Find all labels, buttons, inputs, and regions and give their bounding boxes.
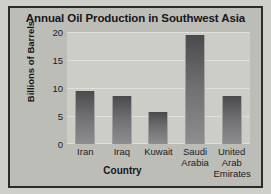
- bars-layer: [67, 32, 250, 144]
- bar-slot: [213, 32, 250, 144]
- y-tick-label: 5: [41, 111, 63, 122]
- bar-saudi-arabia: [185, 35, 205, 144]
- chart-title: Annual Oil Production in Southwest Asia: [10, 12, 261, 24]
- bar-iraq: [112, 96, 132, 144]
- y-tick-label: 10: [41, 83, 63, 94]
- plot-area: [67, 32, 250, 144]
- x-tick-label-line: Iran: [67, 146, 104, 157]
- x-tick-label-line: United: [213, 146, 250, 157]
- bar-kuwait: [148, 112, 168, 144]
- x-tick-label-line: Iraq: [104, 146, 141, 157]
- bar-slot: [67, 32, 104, 144]
- bar-slot: [104, 32, 141, 144]
- bar-united-arab-emirates: [222, 96, 242, 144]
- x-tick-label-line: Kuwait: [140, 146, 177, 157]
- y-tick-label: 15: [41, 55, 63, 66]
- y-tick-label: 0: [41, 139, 63, 150]
- y-axis-title: Billions of Barrels: [25, 14, 36, 110]
- bar-slot: [177, 32, 214, 144]
- chart-page: Annual Oil Production in Southwest Asia …: [0, 0, 271, 194]
- y-tick-label: 20: [41, 27, 63, 38]
- chart-frame: Annual Oil Production in Southwest Asia …: [8, 6, 263, 188]
- y-axis-tick-labels: 20 15 10 5 0: [39, 32, 63, 144]
- x-tick-label-line: Saudi: [177, 146, 214, 157]
- x-axis-title: Country: [10, 165, 235, 176]
- bar-iran: [75, 91, 95, 144]
- bar-slot: [140, 32, 177, 144]
